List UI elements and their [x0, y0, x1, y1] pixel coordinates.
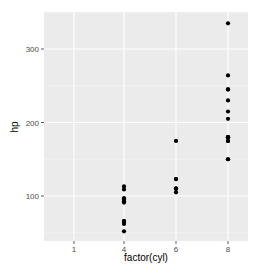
x-axis-title: factor(cyl)	[124, 252, 168, 263]
y-tick-label: 300	[26, 45, 40, 54]
data-point	[226, 135, 230, 139]
x-tick-label: 8	[226, 245, 231, 254]
data-point	[174, 177, 178, 181]
data-point	[226, 98, 230, 102]
scatter-chart: 100200300 1468 factor(cyl) hp	[0, 0, 266, 278]
data-point	[226, 73, 230, 77]
data-point	[226, 139, 230, 143]
data-point	[226, 117, 230, 121]
data-point	[122, 229, 126, 233]
x-tick-label: 6	[174, 245, 179, 254]
data-point	[174, 139, 178, 143]
data-point	[226, 87, 230, 91]
y-axis-title: hp	[9, 121, 20, 133]
plot-panel	[44, 12, 248, 241]
x-tick-label: 1	[72, 245, 77, 254]
y-tick-label: 100	[26, 192, 40, 201]
data-point	[122, 196, 126, 200]
y-tick-label: 200	[26, 119, 40, 128]
data-point	[226, 21, 230, 25]
data-point	[226, 109, 230, 113]
data-point	[174, 187, 178, 191]
y-axis: 100200300	[26, 45, 44, 201]
data-point	[122, 219, 126, 223]
data-point	[226, 157, 230, 161]
data-point	[122, 184, 126, 188]
data-point	[174, 190, 178, 194]
